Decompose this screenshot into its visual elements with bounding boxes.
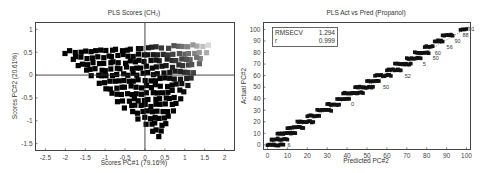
score-point: [160, 109, 165, 114]
y-tick-label: 0: [29, 71, 33, 78]
x-tick-label: 30: [324, 152, 332, 159]
score-point: [112, 79, 117, 84]
point-label: 5: [423, 61, 426, 67]
act-vs-pred-plot: PLS Act vs Pred (Propanol) 6050525506056…: [240, 9, 475, 164]
score-point: [115, 99, 120, 104]
pred-point: [361, 91, 365, 95]
y-tick-label: 50: [253, 83, 261, 90]
score-point: [134, 85, 139, 90]
score-point: [93, 48, 98, 53]
score-point: [149, 45, 154, 50]
left-y-axis-label: Scores PC#2 (20.61%): [11, 53, 19, 119]
pred-point: [294, 131, 298, 135]
pred-point: [409, 62, 413, 66]
score-point: [84, 56, 89, 61]
score-point: [194, 55, 199, 60]
score-point: [161, 52, 166, 57]
score-point: [197, 61, 202, 66]
y-tick-label: -1: [27, 117, 33, 124]
score-point: [135, 111, 140, 116]
left-chart-title: PLS Scores (CH₂): [108, 9, 160, 17]
score-point: [98, 48, 103, 53]
y-tick-label: 80: [253, 49, 261, 56]
score-point: [131, 79, 136, 84]
score-point: [103, 73, 108, 78]
score-point: [162, 75, 167, 80]
score-point: [120, 98, 125, 103]
score-point: [171, 43, 176, 48]
stat-label-rmsecv: RMSECV: [275, 29, 303, 36]
score-point: [103, 48, 108, 53]
pred-point: [302, 126, 306, 130]
score-point: [142, 98, 147, 103]
score-point: [171, 108, 176, 113]
score-point: [179, 56, 184, 61]
score-point: [159, 64, 164, 69]
score-point: [189, 62, 194, 67]
x-tick-label: 70: [403, 152, 411, 159]
score-point: [185, 83, 190, 88]
score-point: [159, 45, 164, 50]
score-point: [138, 46, 143, 51]
score-point: [110, 59, 115, 64]
score-point: [133, 59, 138, 64]
score-point: [101, 55, 106, 60]
score-point: [121, 78, 126, 83]
score-point: [153, 58, 158, 63]
y-tick-label: 10: [253, 130, 261, 137]
point-label: 91: [469, 26, 475, 32]
score-point: [149, 122, 154, 127]
score-point: [178, 69, 183, 74]
score-point: [114, 72, 119, 77]
point-label: 50: [383, 84, 389, 90]
score-point: [162, 115, 167, 120]
score-point: [139, 92, 144, 97]
score-point: [159, 128, 164, 133]
score-point: [155, 90, 160, 95]
stat-value-rmsecv: 1.294: [319, 29, 336, 36]
x-tick-label: 90: [443, 152, 451, 159]
score-point: [150, 66, 155, 71]
score-point: [184, 57, 189, 62]
score-point: [173, 58, 178, 63]
score-point: [117, 66, 122, 71]
score-point: [148, 58, 153, 63]
score-point: [128, 47, 133, 52]
y-tick-label: 20: [253, 118, 261, 125]
scores-plot: PLS Scores (CH₂) -2.5-2-1.5-1-0.500.511.…: [11, 9, 235, 167]
score-point: [148, 104, 153, 109]
score-point: [144, 122, 149, 127]
score-point: [102, 80, 107, 85]
score-point: [107, 79, 112, 84]
x-tick-label: 1.5: [200, 154, 209, 161]
score-point: [138, 66, 143, 71]
score-point: [172, 95, 177, 100]
y-tick-label: 60: [253, 72, 261, 79]
score-point: [130, 66, 135, 71]
score-point: [139, 103, 144, 108]
score-point: [89, 73, 94, 78]
score-point: [172, 76, 177, 81]
score-point: [130, 109, 135, 114]
score-point: [153, 97, 158, 102]
score-point: [185, 70, 190, 75]
score-point: [178, 96, 183, 101]
score-point: [165, 84, 170, 89]
score-point: [144, 90, 149, 95]
stat-value-r: 0.999: [319, 37, 336, 44]
score-point: [186, 51, 191, 56]
pred-point: [441, 40, 445, 44]
score-point: [97, 81, 102, 86]
y-tick-label: 70: [253, 60, 261, 67]
score-point: [170, 102, 175, 107]
score-point: [116, 60, 121, 65]
score-point: [107, 53, 112, 58]
pred-point: [286, 138, 290, 142]
x-tick-label: 2: [223, 154, 227, 161]
point-label: 6: [287, 142, 290, 148]
y-tick-label: 0.5: [23, 49, 32, 56]
score-point: [170, 83, 175, 88]
score-point: [150, 109, 155, 114]
pred-point: [282, 143, 286, 147]
score-point: [154, 127, 159, 132]
